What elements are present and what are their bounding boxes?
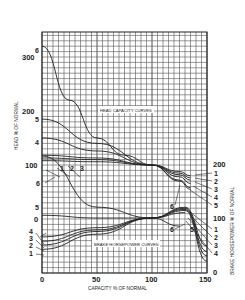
bhp-curve-label-6: 6	[36, 180, 40, 187]
left-tick-100: 100	[25, 161, 38, 170]
x-tick-150: 150	[199, 275, 212, 284]
bhp-right-label-1: 1	[214, 226, 218, 233]
right-tick-200: 200	[213, 160, 226, 169]
head-curve-label-5: 5	[35, 116, 39, 123]
left-tick-300: 300	[22, 53, 35, 62]
bhp-right-label-3: 3	[214, 242, 218, 249]
bhp-curve-label-2: 2	[29, 242, 33, 249]
head-curve-label-1: 1	[60, 165, 64, 172]
right-tick-100: 100	[213, 214, 226, 223]
head-right-label-6: 6	[170, 203, 174, 210]
head-right-label-4: 4	[214, 194, 218, 201]
bhp-curve-label-4: 4	[29, 228, 33, 235]
x-tick-50: 50	[92, 275, 100, 284]
bhp-annotation: BRAKE HORSEPOWER CURVES	[94, 242, 159, 247]
x-axis-title: CAPACITY % OF NORMAL	[88, 286, 147, 291]
head-curve-label-4: 4	[35, 139, 39, 146]
head-curve-label-2: 2	[70, 165, 74, 172]
bhp-right-label-2: 2	[214, 234, 218, 241]
head-right-label-2: 2	[214, 178, 218, 185]
bhp-curve-label-3: 3	[29, 235, 33, 242]
head-annotation: HEAD CAPACITY CURVES	[100, 108, 152, 113]
bhp-right-label-6: 6	[170, 226, 174, 233]
left-tick-0: 0	[34, 215, 38, 224]
bhp-curve-label-1: 1	[29, 250, 33, 257]
head-right-label-3: 3	[214, 186, 218, 193]
x-tick-100: 100	[145, 275, 158, 284]
head-curve-label-6-top: 6	[35, 47, 39, 54]
pump-performance-chart: HEAD CAPACITY CURVES BRAKE HORSEPOWER CU…	[0, 0, 245, 300]
head-right-label-5: 5	[214, 202, 218, 209]
head-curve-label-3: 3	[80, 165, 84, 172]
bhp-right-label-5: 5	[190, 226, 194, 233]
bhp-right-label-4: 4	[214, 250, 218, 257]
right-tick-0: 0	[213, 268, 217, 277]
y-axis-title-left: HEAD % OF NORMAL	[14, 101, 19, 150]
bhp-curve-label-5: 5	[35, 204, 39, 211]
left-tick-200: 200	[22, 107, 35, 116]
head-right-label-1: 1	[214, 170, 218, 177]
y-axis-title-right: BRAKE HORSEPOWER % OF NORMAL	[230, 186, 235, 275]
x-tick-0: 0	[40, 275, 44, 284]
